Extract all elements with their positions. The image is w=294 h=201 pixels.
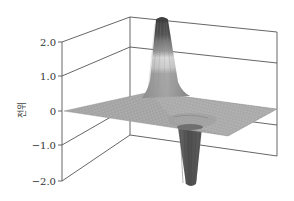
negative-trough [178,128,202,186]
grid-line-left-1 [62,47,130,76]
grid-line-left-2 [62,17,130,42]
tick-label-m2: −2.0 [32,176,56,187]
tick-label-m1: −1.0 [32,140,56,151]
positive-peak [142,17,190,98]
z-axis-label: 전위 [17,102,27,118]
tick-label-0: 0 [50,106,56,117]
tick-label-2: 2.0 [40,37,56,48]
grid-line-right-2 [130,17,277,32]
z-tick-labels: 2.0 1.0 0 −1.0 −2.0 [32,37,56,187]
grid-line-right-m2 [130,135,277,156]
grid-line-left-m2 [62,135,130,181]
surface-plot-canvas: 2.0 1.0 0 −1.0 −2.0 전위 [0,0,294,201]
surface-plot-figure: 2.0 1.0 0 −1.0 −2.0 전위 [0,0,294,201]
tick-label-1: 1.0 [40,71,56,82]
baseline-surface [64,92,277,136]
